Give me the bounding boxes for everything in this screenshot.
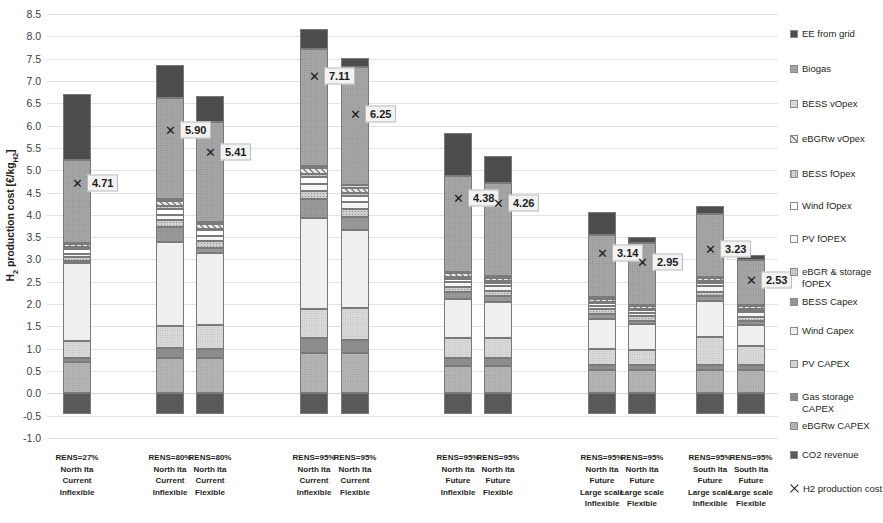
plot-area: 8.58.07.57.06.56.05.55.04.54.03.53.02.52…: [47, 14, 778, 438]
y-axis-tick-label: 2.5: [26, 276, 41, 288]
bar-segment-bess_cap: [63, 261, 91, 263]
legend-label: PV CAPEX: [802, 358, 883, 370]
bar-segment-biogas: [63, 160, 91, 243]
bar-segment-pv_cap: [341, 308, 369, 340]
bar-segment-bess_vop: [588, 297, 616, 299]
bar-c3[interactable]: [196, 14, 224, 438]
legend-item-ebgrw-capex[interactable]: eBGRw CAPEX: [790, 420, 883, 432]
x-category-line: RENS=95%: [722, 452, 780, 464]
legend-item-wind-capex[interactable]: Wind Capex: [790, 325, 883, 337]
legend-label: EE from grid: [802, 28, 883, 40]
bar-segment-ebgr_fop: [63, 257, 91, 261]
legend-item-bess-fopex[interactable]: BESS fOpex: [790, 168, 883, 180]
legend-swatch-icon: [790, 235, 798, 243]
bar-c1[interactable]: [63, 14, 91, 438]
legend-label: H2 production cost: [803, 483, 883, 495]
y-axis-tick-label: 0.5: [26, 365, 41, 377]
x-category-line: RENS=80%: [181, 452, 239, 464]
y-axis-tick-label: 7.5: [26, 53, 41, 65]
legend-item-ee-from-grid[interactable]: EE from grid: [790, 28, 883, 40]
bar-segment-bess_cap: [484, 296, 512, 302]
bar-c8[interactable]: [588, 14, 616, 438]
bar-segment-wind_cap: [444, 299, 472, 337]
legend-item-gas-storage-capex[interactable]: Gas storage CAPEX: [790, 391, 883, 414]
bar-segment-bess_fop: [484, 281, 512, 283]
bar-segment-bess_cap: [696, 296, 724, 301]
legend-item-ebgrw-vopex[interactable]: eBGRw vOpex: [790, 133, 883, 145]
bar-c9[interactable]: [628, 14, 656, 438]
bar-segment-biogas: [156, 98, 184, 199]
bar-segment-ebgrw_cap: [196, 358, 224, 394]
x-category-line: North Ita: [613, 464, 671, 476]
bar-segment-gas_cap: [156, 348, 184, 358]
legend-label: CO2 revenue: [802, 449, 883, 461]
bar-segment-wind_fop: [156, 209, 184, 215]
legend-item-wind-fopex[interactable]: Wind fOpex: [790, 200, 883, 212]
x-category-label-c11: RENS=95%South ItaFutureLarge scaleFlexib…: [722, 452, 780, 510]
bar-segment-ee_grid: [341, 58, 369, 66]
bar-segment-bess_fop: [63, 247, 91, 249]
bar-segment-bess_cap: [341, 217, 369, 230]
x-category-line: Flexible: [469, 487, 527, 499]
legend-item-biogas[interactable]: Biogas: [790, 63, 883, 75]
bar-segment-ee_grid: [300, 29, 328, 49]
bar-c2[interactable]: [156, 14, 184, 438]
legend-label: BESS Capex: [802, 296, 883, 308]
bar-segment-gas_cap: [341, 340, 369, 353]
bar-segment-bess_fop: [196, 229, 224, 231]
legend-item-pv-capex[interactable]: PV CAPEX: [790, 358, 883, 370]
bar-segment-pv_cap: [484, 338, 512, 359]
bar-segment-pv_cap: [628, 350, 656, 365]
legend-swatch-icon: [790, 451, 798, 459]
bar-segment-bess_vop: [156, 199, 184, 201]
bar-segment-pv_fop: [196, 236, 224, 241]
bar-segment-bess_fop: [444, 277, 472, 279]
legend-label: eBGRw vOpex: [802, 133, 883, 145]
bar-c11[interactable]: [737, 14, 765, 438]
x-category-line: RENS=95%: [469, 452, 527, 464]
y-axis-tick-label: -0.5: [23, 410, 41, 422]
legend-item-h2-production-cost[interactable]: H2 production cost: [790, 483, 883, 495]
bar-segment-ebgrw_cap: [63, 362, 91, 393]
bar-segment-bess_cap: [300, 199, 328, 218]
bar-segment-bess_cap: [156, 227, 184, 241]
bar-segment-co2: [341, 393, 369, 414]
bar-c7[interactable]: [484, 14, 512, 438]
bar-segment-wind_fop: [444, 279, 472, 283]
x-category-line: Flexible: [326, 487, 384, 499]
legend-item-ebgr-storage-fopex[interactable]: eBGR & storage fOPEX: [790, 266, 883, 289]
bar-segment-wind_fop: [484, 283, 512, 286]
bar-segment-bess_fop: [156, 206, 184, 209]
h2-cost-value-label: 5.41: [220, 143, 251, 160]
h2-cost-value-label: 6.25: [365, 106, 396, 123]
y-axis-title: H2 production cost [€/kgH2]: [4, 121, 19, 311]
bar-segment-gas_cap: [196, 349, 224, 358]
bar-segment-gas_cap: [300, 338, 328, 353]
x-category-line: Large scale: [722, 487, 780, 499]
bar-segment-wind_fop: [196, 230, 224, 235]
bar-segment-bess_vop: [737, 305, 765, 307]
legend-item-co2-revenue[interactable]: CO2 revenue: [790, 449, 883, 461]
y-axis-tick-label: 5.0: [26, 164, 41, 176]
bar-segment-bess_cap: [588, 314, 616, 319]
legend-swatch-icon: [790, 202, 798, 210]
legend-item-pv-fopex[interactable]: PV fOPEX: [790, 233, 883, 245]
x-category-label-c1: RENS=27%North ItaCurrentInflexible: [48, 452, 106, 498]
bar-c6[interactable]: [444, 14, 472, 438]
x-category-line: Future: [722, 475, 780, 487]
y-axis-tick-label: 6.5: [26, 97, 41, 109]
legend-item-bess-vopex[interactable]: BESS vOpex: [790, 98, 883, 110]
bar-segment-gas_cap: [737, 365, 765, 370]
legend-swatch-icon: [790, 65, 798, 73]
legend-swatch-icon: [790, 422, 798, 430]
bar-c10[interactable]: [696, 14, 724, 438]
legend-swatch-icon: [790, 135, 798, 143]
x-category-line: Future: [613, 475, 671, 487]
bar-segment-ebgrw_cap: [300, 353, 328, 393]
bar-segment-ebgr_fop: [484, 291, 512, 296]
y-axis-tick-label: 7.0: [26, 75, 41, 87]
legend-item-bess-capex[interactable]: BESS Capex: [790, 296, 883, 308]
bar-segment-co2: [628, 393, 656, 414]
bar-segment-gas_cap: [63, 358, 91, 362]
h2-cost-value-label: 3.23: [720, 241, 751, 258]
